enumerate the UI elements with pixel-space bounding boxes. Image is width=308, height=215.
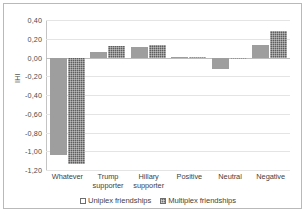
multiplex-swatch-icon [160, 198, 166, 204]
bar[interactable] [270, 31, 287, 57]
bar[interactable] [50, 58, 67, 156]
bar-groups [47, 20, 290, 170]
chart-frame: IHI 0,400,200,00-0,20-0,40-0,60-0,80-1,0… [3, 3, 302, 209]
y-axis-tick-label: 0,40 [28, 16, 42, 25]
x-axis-category-label: Whatever [47, 173, 88, 190]
bar-group [128, 20, 169, 170]
uniplex-swatch-icon [80, 198, 86, 204]
bar[interactable] [230, 58, 247, 60]
legend-item[interactable]: Uniplex friendships [80, 196, 151, 205]
y-axis-tick-label: -1,20 [25, 166, 42, 175]
y-axis-tick-label: -0,20 [25, 72, 42, 81]
x-axis-category-label: Neutral [210, 173, 251, 190]
y-axis-tick-label: -0,60 [25, 109, 42, 118]
bar-group [169, 20, 210, 170]
y-axis-tick-label: -0,40 [25, 91, 42, 100]
bar-group [47, 20, 88, 170]
legend-item-label: Uniplex friendships [88, 196, 151, 205]
bar-group [250, 20, 291, 170]
y-axis-tick-label: 0,20 [28, 34, 42, 43]
x-axis-category-label: Hillary supporter [128, 173, 169, 190]
bar[interactable] [189, 57, 206, 58]
chart-legend: Uniplex friendshipsMultiplex friendships [4, 196, 308, 205]
bar[interactable] [108, 46, 125, 57]
x-axis-category-label: Positive [169, 173, 210, 190]
bar[interactable] [131, 47, 148, 57]
bar-group [209, 20, 250, 170]
bar[interactable] [252, 45, 269, 57]
bar[interactable] [68, 58, 85, 165]
y-axis-tick-label: 0,00 [28, 53, 42, 62]
legend-item[interactable]: Multiplex friendships [160, 196, 236, 205]
x-axis-labels: WhateverTrump supporterHillary supporter… [47, 173, 291, 190]
bar[interactable] [90, 52, 107, 58]
y-axis-tick-label: -1,00 [25, 147, 42, 156]
y-axis-title: IHI [13, 73, 22, 83]
legend-item-label: Multiplex friendships [168, 196, 236, 205]
y-axis-tick-label: -0,80 [25, 128, 42, 137]
bar[interactable] [212, 58, 229, 69]
plot-area: 0,400,200,00-0,20-0,40-0,60-0,80-1,00-1,… [46, 20, 290, 170]
x-axis-category-label: Negative [250, 173, 291, 190]
bar[interactable] [149, 45, 166, 57]
x-axis-category-label: Trump supporter [88, 173, 129, 190]
bar-group [88, 20, 129, 170]
bar[interactable] [171, 57, 188, 58]
gridline [46, 170, 290, 171]
